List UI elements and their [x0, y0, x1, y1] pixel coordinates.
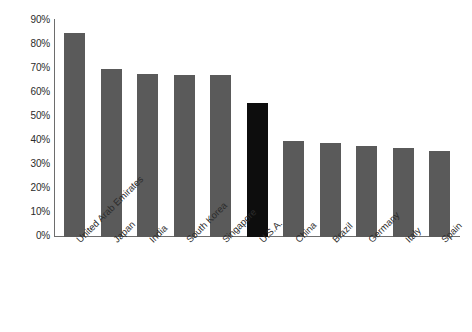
bar-slot: [240, 21, 276, 237]
x-axis-category-label: China: [293, 237, 301, 245]
x-axis-category-label: Japan: [111, 237, 119, 245]
x-axis-category-label: U.S.A.: [257, 237, 265, 245]
bar: [64, 33, 85, 237]
x-axis-category-label: United Arab Emirates: [74, 237, 82, 245]
bar: [429, 151, 450, 237]
x-axis-category-label: South Korea: [184, 237, 192, 245]
bar-slot: [422, 21, 458, 237]
bar: [283, 141, 304, 237]
bar: [393, 148, 414, 237]
bar-slot: [276, 21, 312, 237]
x-axis-category-label: Spain: [439, 237, 447, 245]
bar-slot: [386, 21, 422, 237]
y-axis-tick-label: 90%: [2, 15, 50, 25]
x-axis-category-label: Germany: [366, 237, 374, 245]
bar: [356, 146, 377, 237]
y-axis-tick-label: 60%: [2, 87, 50, 97]
bar-chart: 90%80%70%60%50%40%30%20%10%0% United Ara…: [0, 0, 472, 332]
bar-slot: [167, 21, 203, 237]
y-axis-tick-label: 50%: [2, 111, 50, 121]
y-axis-tick-label: 10%: [2, 207, 50, 217]
bar: [137, 74, 158, 237]
y-axis-tick-label: 30%: [2, 159, 50, 169]
y-axis-tick-label: 0%: [2, 231, 50, 241]
y-axis-tick-labels: 90%80%70%60%50%40%30%20%10%0%: [0, 0, 50, 332]
x-axis-category-label: Singapore: [220, 237, 228, 245]
x-axis-category-label: India: [147, 237, 155, 245]
bar-slot: [313, 21, 349, 237]
y-axis-tick-label: 70%: [2, 63, 50, 73]
x-axis-category-label: Brazil: [330, 237, 338, 245]
x-axis-category-label: Italy: [403, 237, 411, 245]
bar: [174, 75, 195, 237]
y-axis-tick-label: 80%: [2, 39, 50, 49]
bar-slot: [130, 21, 166, 237]
bar: [320, 143, 341, 237]
y-axis-tick-label: 20%: [2, 183, 50, 193]
bar-slot: [57, 21, 93, 237]
y-axis-tick-label: 40%: [2, 135, 50, 145]
bar-slot: [349, 21, 385, 237]
x-axis-category-labels: United Arab EmiratesJapanIndiaSouth Kore…: [55, 237, 465, 332]
